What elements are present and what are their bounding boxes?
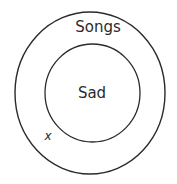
sad-label: Sad xyxy=(78,84,106,102)
songs-label: Songs xyxy=(75,18,121,36)
x-marker: x xyxy=(43,129,52,143)
venn-diagram: Songs Sad x xyxy=(0,0,177,184)
